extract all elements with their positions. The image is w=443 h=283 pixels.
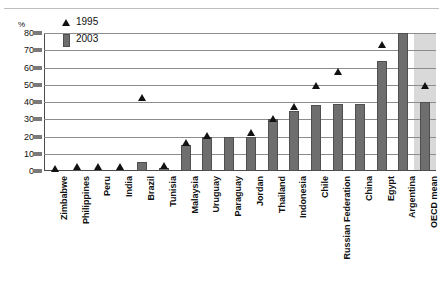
triangle-marker [269,115,277,122]
bar [246,137,256,172]
y-axis-tick-mark [33,83,42,87]
y-axis-tick-mark [33,48,42,52]
x-axis-category-label: Russian Federation [342,176,352,260]
x-axis-category-label: Tunisia [168,176,178,207]
top-divider [4,8,439,9]
triangle-marker [421,82,429,89]
bar [398,33,408,171]
bar [289,111,299,171]
x-axis-category-label: Zimbabwe [59,176,69,220]
x-axis-category-label: Egypt [386,176,396,201]
triangle-marker [73,163,81,170]
triangle-marker [94,163,102,170]
triangle-marker [51,165,59,172]
bar [420,102,430,171]
bar [355,104,365,171]
y-axis-tick-label: 20 [8,133,34,142]
bar [181,145,191,171]
y-axis-tick-label: 80 [8,29,34,38]
triangle-marker [116,163,124,170]
x-axis-category-label: India [124,176,134,197]
y-axis-tick-mark [33,117,42,121]
x-axis-category-label: Thailand [277,176,287,213]
bar [268,119,278,171]
bar [311,105,321,171]
x-axis-category-label: Jordan [255,176,265,206]
x-axis-category-label: Brazil [146,176,156,201]
x-axis-category-label: China [364,176,374,201]
legend-label-1995: 1995 [76,16,98,27]
x-axis-category-label: Argentina [407,176,417,218]
bar [333,104,343,171]
y-axis-tick-mark [33,135,42,139]
bar [224,137,234,172]
triangle-marker [290,103,298,110]
y-axis-tick-label: 70 [8,46,34,55]
y-axis-tick-label: 60 [8,64,34,73]
x-axis-category-label: Peru [102,176,112,196]
y-axis-tick-label: 50 [8,81,34,90]
y-axis-tick-label: 0 [8,167,34,176]
triangle-marker [182,139,190,146]
bar [137,162,147,171]
y-axis-tick-label: 10 [8,150,34,159]
triangle-marker [160,162,168,169]
y-axis-tick-mark [33,152,42,156]
x-axis-category-label: Philippines [81,176,91,224]
x-axis-category-label: OECD mean [429,176,439,228]
y-axis-tick-label: 30 [8,115,34,124]
triangle-marker [334,68,342,75]
x-axis-category-label: Indonesia [298,176,308,218]
chart-root: % 1995 2003 01020304050607080ZimbabwePhi… [0,0,443,283]
x-axis-category-label: Chile [320,176,330,198]
x-axis-category-label: Malaysia [190,176,200,214]
triangle-marker [138,94,146,101]
x-axis-category-label: Paraguay [233,176,243,217]
y-axis-tick-mark [33,66,42,70]
bar [377,61,387,171]
triangle-marker [378,41,386,48]
plot-area [44,33,436,171]
triangle-marker-icon [62,19,70,26]
y-axis-tick-mark [33,169,42,173]
triangle-marker [247,129,255,136]
gridline [44,50,436,51]
x-axis-category-label: Uruguay [211,176,221,213]
triangle-marker [312,82,320,89]
gridline [44,33,436,34]
y-axis-tick-mark [33,31,42,35]
y-axis-tick-mark [33,100,42,104]
bar [202,137,212,172]
triangle-marker [203,132,211,139]
y-axis-tick-label: 40 [8,98,34,107]
